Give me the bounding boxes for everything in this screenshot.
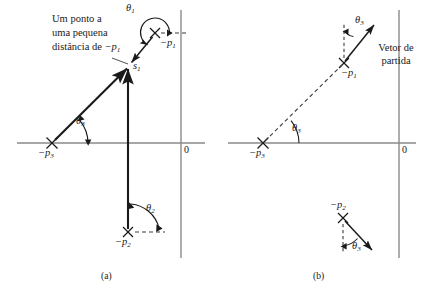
panel-b-label-minus-p1: −p1 [341, 67, 357, 81]
annotation-line-2: uma pequena [52, 27, 108, 38]
panel-a-caption: (a) [101, 271, 112, 283]
theta3-lower-subscript: 3 [297, 127, 301, 135]
panel-b-label-theta3-upper: θ3 [355, 14, 364, 28]
panel-b-label-theta3-inset: θ3 [352, 240, 361, 254]
panel-a-label-theta2: θ2 [146, 202, 155, 216]
theta2-subscript: 2 [151, 207, 155, 215]
panel-b-vector-note: Vetor de partida [367, 42, 425, 68]
figure-root-locus-departure-angle: Um ponto a uma pequena distância de −p1 … [0, 0, 429, 292]
minus-p3b-symbol: −p [249, 147, 261, 158]
minus-p2-symbol: −p [115, 236, 127, 247]
panel-a-label-s1: s1 [133, 60, 141, 74]
panel-a-label-minus-p3: −p3 [38, 147, 54, 161]
panel-a-vector-p1-s1 [132, 37, 153, 63]
vector-note-line-1: Vetor de [378, 42, 413, 53]
panel-a-label-theta1: θ1 [126, 2, 135, 16]
minus-p3-symbol: −p [38, 147, 50, 158]
panel-a-origin-label: 0 [184, 144, 189, 156]
panel-b-origin-label: 0 [402, 144, 407, 156]
panel-a-label-minus-p1: −p1 [160, 37, 176, 51]
annotation-line-1: Um ponto a [52, 13, 102, 24]
minus-p1-subscript: 1 [172, 42, 176, 50]
theta3-inset-subscript: 3 [357, 245, 361, 253]
minus-p1-symbol: −p [160, 37, 172, 48]
theta3-upper-subscript: 3 [360, 19, 364, 27]
minus-p2b-symbol: −p [330, 199, 342, 210]
vector-note-line-2: partida [381, 55, 410, 66]
panel-b-label-minus-p2: −p2 [330, 199, 346, 213]
panel-b-dashed-p3-p1 [265, 65, 342, 141]
panel-b-inset-angle-arc-theta3-tip [341, 243, 347, 250]
panel-b-caption: (b) [313, 271, 324, 283]
annotation-pole-subscript: 1 [117, 46, 121, 54]
panel-b-label-minus-p3: −p3 [249, 147, 265, 161]
panel-a-label-minus-p2: −p2 [115, 236, 131, 250]
minus-p2b-subscript: 2 [342, 204, 346, 212]
minus-p3-subscript: 3 [50, 152, 54, 160]
panel-b-label-theta3-lower: θ3 [292, 122, 301, 136]
theta3-subscript: 3 [81, 120, 85, 128]
panel-a-vector-p3-s1 [55, 69, 127, 141]
annotation-line-3: distância de [52, 41, 102, 52]
minus-p2-subscript: 2 [127, 241, 131, 249]
annotation-pole-symbol: −p [104, 41, 116, 52]
panel-a-caption-leader [112, 58, 128, 64]
theta1-subscript: 1 [131, 7, 135, 15]
s1-subscript: 1 [137, 65, 141, 73]
minus-p3b-subscript: 3 [261, 152, 265, 160]
minus-p1b-symbol: −p [341, 67, 353, 78]
minus-p1b-subscript: 1 [353, 72, 357, 80]
panel-a-label-theta3: θ3 [76, 115, 85, 129]
panel-a-angle-arc-theta2-tip2 [156, 224, 162, 232]
panel-a-annotation-text: Um ponto a uma pequena distância de −p1 [52, 12, 130, 55]
